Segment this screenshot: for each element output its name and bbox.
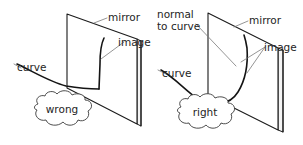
label-mirror-right: mirror bbox=[249, 14, 282, 26]
verdict-label-right: right bbox=[193, 106, 218, 118]
mirror-leader-wrong bbox=[94, 18, 107, 23]
diagram-canvas: mirror image curve wrong norm bbox=[0, 0, 303, 145]
mirror-thickness-edge-right bbox=[278, 48, 283, 132]
mirror-thickness-edge-wrong bbox=[137, 39, 141, 126]
mirror-leader-right bbox=[234, 21, 248, 27]
reflection-diagram-figure: mirror image curve wrong norm bbox=[0, 0, 303, 145]
panel-right: normal to curve mirror image curve right bbox=[157, 8, 297, 132]
label-mirror-wrong: mirror bbox=[108, 11, 141, 23]
verdict-label-wrong: wrong bbox=[46, 103, 78, 115]
label-curve-wrong: curve bbox=[17, 61, 46, 73]
label-image-wrong: image bbox=[118, 36, 151, 48]
label-normal-line1-right: normal bbox=[157, 8, 194, 20]
label-image-right: image bbox=[264, 41, 297, 53]
panel-wrong: mirror image curve wrong bbox=[14, 11, 151, 126]
label-normal-line2-right: to curve bbox=[157, 20, 200, 32]
label-curve-right: curve bbox=[162, 67, 191, 79]
